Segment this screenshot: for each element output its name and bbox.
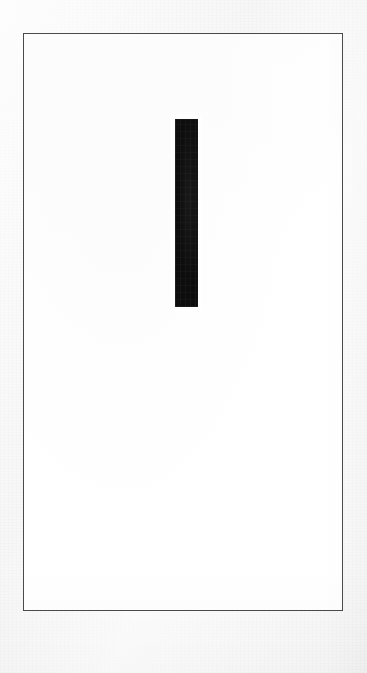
bar-ink-texture: [175, 119, 198, 307]
vertical-black-bar: [175, 119, 198, 307]
artwork-frame-border: [23, 33, 343, 611]
scanned-page-canvas: Scanned sheet of paper: [0, 0, 367, 673]
